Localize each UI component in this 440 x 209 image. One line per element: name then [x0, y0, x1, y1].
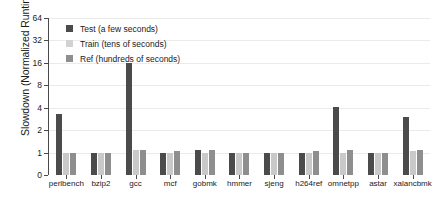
bar-hmmer-train: [236, 153, 242, 175]
bar-bzip2-ref: [105, 153, 111, 175]
legend-label-train: Train (tens of seconds): [80, 39, 167, 49]
y-tick-label: 2: [37, 125, 42, 135]
x-axis-label-omnetpp: omnetpp: [328, 179, 359, 188]
tick-mark: [44, 18, 48, 19]
legend-item-train: Train (tens of seconds): [66, 37, 180, 50]
bar-sjeng-ref: [278, 153, 284, 175]
bar-hmmer-ref: [243, 153, 249, 175]
y-tick-label: 1: [37, 148, 42, 158]
x-axis-label-perlbench: perlbench: [49, 179, 84, 188]
legend-swatch-train-icon: [66, 40, 73, 47]
bar-perlbench-ref: [70, 153, 76, 175]
bar-group-sjeng: [257, 18, 292, 175]
legend-item-ref: Ref (hundreds of seconds): [66, 52, 180, 65]
bar-gobmk-test: [195, 150, 201, 176]
bar-mcf-train: [167, 153, 173, 175]
bar-gcc-test: [126, 63, 132, 175]
bar-xalancbmk-train: [410, 151, 416, 175]
bar-sjeng-test: [264, 153, 270, 175]
tick-mark: [44, 85, 48, 86]
bar-omnetpp-ref: [347, 150, 353, 176]
bar-perlbench-test: [56, 114, 62, 175]
x-axis-label-hmmer: hmmer: [227, 179, 252, 188]
legend-swatch-test-icon: [66, 25, 73, 32]
x-axis-label-bzip2: bzip2: [91, 179, 110, 188]
bar-h264ref-ref: [313, 151, 319, 175]
tick-mark: [44, 130, 48, 131]
y-tick-label: 4: [37, 103, 42, 113]
bar-mcf-test: [160, 153, 166, 175]
y-tick-label: 32: [33, 35, 42, 45]
tick-mark: [44, 63, 48, 64]
bar-xalancbmk-ref: [417, 150, 423, 176]
legend-swatch-ref-icon: [66, 55, 73, 62]
x-axis-label-xalancbmk: xalancbmk: [394, 179, 432, 188]
tick-mark: [44, 40, 48, 41]
bar-group-omnetpp: [326, 18, 361, 175]
bar-group-xalancbmk: [395, 18, 430, 175]
legend-item-test: Test (a few seconds): [66, 22, 180, 35]
y-axis-title: Slowdown (Normalized Runtime): [19, 0, 31, 146]
bar-gobmk-ref: [209, 150, 215, 176]
bar-gobmk-train: [202, 153, 208, 175]
bar-h264ref-train: [306, 153, 312, 175]
legend: Test (a few seconds) Train (tens of seco…: [66, 22, 180, 67]
bar-omnetpp-test: [333, 107, 339, 175]
bar-astar-ref: [382, 153, 388, 175]
legend-label-ref: Ref (hundreds of seconds): [80, 54, 180, 64]
bar-astar-test: [368, 153, 374, 175]
bar-gcc-ref: [140, 150, 146, 176]
y-tick-label: 16: [33, 58, 42, 68]
legend-label-test: Test (a few seconds): [80, 24, 158, 34]
bar-group-h264ref: [291, 18, 326, 175]
y-tick-label: 64: [33, 13, 42, 23]
x-axis-label-mcf: mcf: [164, 179, 177, 188]
x-axis-label-h264ref: h264ref: [295, 179, 322, 188]
bar-bzip2-test: [91, 153, 97, 175]
bar-group-astar: [361, 18, 396, 175]
bar-mcf-ref: [174, 151, 180, 175]
bar-sjeng-train: [271, 153, 277, 175]
x-axis-label-astar: astar: [369, 179, 387, 188]
bar-gcc-train: [133, 150, 139, 176]
bar-h264ref-test: [299, 153, 305, 175]
tick-mark: [44, 153, 48, 154]
tick-mark: [44, 108, 48, 109]
y-tick-label: 8: [37, 80, 42, 90]
bar-group-gobmk: [188, 18, 223, 175]
bar-omnetpp-train: [340, 153, 346, 175]
bar-perlbench-train: [63, 153, 69, 175]
bar-astar-train: [375, 153, 381, 175]
x-axis-label-sjeng: sjeng: [265, 179, 284, 188]
bar-group-hmmer: [222, 18, 257, 175]
y-tick-label: 0: [37, 170, 42, 180]
bar-chart: Slowdown (Normalized Runtime) 0124816326…: [0, 0, 440, 209]
tick-mark: [44, 175, 48, 176]
x-axis-label-gobmk: gobmk: [193, 179, 217, 188]
bar-bzip2-train: [98, 153, 104, 175]
bar-hmmer-test: [229, 153, 235, 175]
x-axis-label-gcc: gcc: [129, 179, 141, 188]
bar-xalancbmk-test: [403, 117, 409, 175]
